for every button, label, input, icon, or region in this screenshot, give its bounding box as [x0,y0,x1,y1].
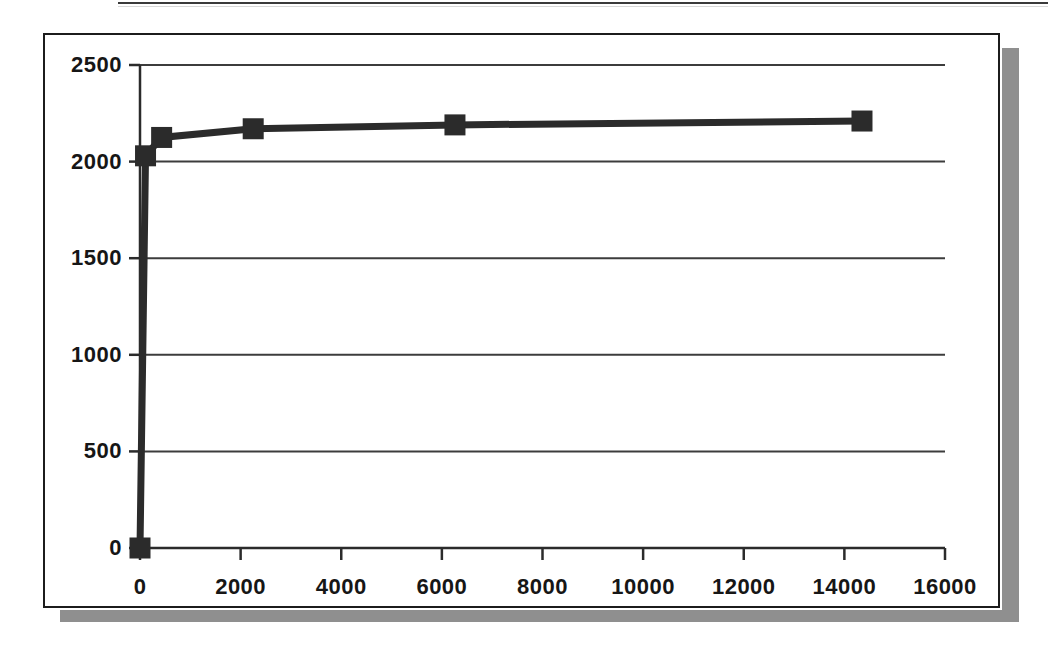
x-axis-tick-label: 12000 [712,574,776,600]
x-axis-tick-label: 16000 [913,574,977,600]
x-axis-tick-label: 0 [134,574,147,600]
chart-drop-shadow-bottom [60,610,1019,622]
x-axis-tick-label: 10000 [611,574,675,600]
page-scan-rule-secondary [118,6,1048,7]
x-axis-tick-label: 8000 [517,574,568,600]
y-axis-tick-label: 500 [0,438,122,464]
x-axis-tick-label: 14000 [813,574,877,600]
x-axis-tick-label: 6000 [416,574,467,600]
page-scan-rule [118,2,1048,4]
chart-drop-shadow-right [1002,48,1019,622]
x-axis-tick-label: 2000 [215,574,266,600]
chart-frame [43,33,1000,608]
y-axis-tick-label: 2000 [0,149,122,175]
x-axis-tick-label: 4000 [316,574,367,600]
y-axis-tick-label: 1000 [0,342,122,368]
y-axis-tick-label: 1500 [0,245,122,271]
y-axis-tick-label: 2500 [0,52,122,78]
y-axis-tick-label: 0 [0,535,122,561]
